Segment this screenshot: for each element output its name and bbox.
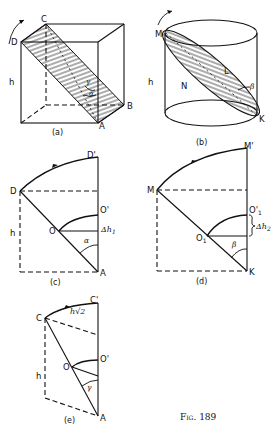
label-O1-prime: O'1 [249,205,262,216]
label-h: h [9,77,14,87]
label-O: O [63,362,70,372]
label-M-prime: M' [244,141,254,151]
label-D: D [10,186,17,196]
label-L: L [224,66,229,76]
label-alpha: α [84,236,89,245]
label-M: M [147,185,154,195]
hatched-plane [21,24,124,123]
panel-c: D' D O' O Δh1 α h A (c) [10,150,116,287]
label-delta-h1: Δh1 [100,225,116,235]
hatched-ellipse [154,21,267,125]
caption-c: (c) [50,278,61,287]
label-O1: O1 [196,233,207,244]
caption-b: (b) [196,138,207,147]
label-O: O [49,226,56,236]
label-O-prime: O' [100,205,109,215]
label-O-prime: O' [100,354,109,364]
label-h: h [36,371,41,381]
label-delta-h2: Δh2 [255,222,271,232]
label-alpha: α [89,90,94,98]
label-C: C [41,14,47,24]
figure-189: C D B A h γ α (a) M N L β K h (b) [0,0,279,435]
label-h: h [10,228,15,238]
label-K: K [259,114,265,124]
caption-e: (e) [64,416,75,425]
label-C-prime: C' [90,295,98,305]
label-beta: β [249,82,255,91]
label-h-sqrt2: h√2 [70,307,85,316]
label-A: A [100,413,106,423]
panel-a-cube: C D B A h γ α (a) [9,14,133,137]
panel-e: C' C h√2 O' O γ h A (e) [36,295,109,425]
label-h: h [148,77,153,87]
panel-b-cylinder: M N L β K h (b) [148,10,268,147]
label-beta: β [231,240,237,249]
panel-d: M' M O'1 Δh2 O1 β K (d) [147,141,271,286]
label-D: D [11,37,18,47]
caption-d: (d) [196,277,207,286]
label-A: A [99,121,105,131]
label-C: C [36,313,42,323]
label-M: M [155,29,162,39]
label-A: A [100,268,106,278]
label-gamma: γ [87,383,92,392]
caption-a: (a) [52,128,63,137]
label-N: N [181,81,187,91]
label-K: K [249,267,255,277]
figure-caption: Fig. 189 [180,412,217,422]
label-D-prime: D' [87,150,96,160]
label-B: B [127,101,133,111]
